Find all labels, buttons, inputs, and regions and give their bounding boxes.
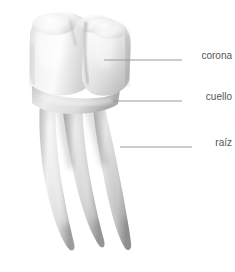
callout-label-corona: corona: [201, 50, 232, 61]
callout-label-cuello: cuello: [206, 91, 232, 102]
callout-label-raiz: raíz: [215, 137, 232, 148]
tooth-anatomy-figure: corona cuello raíz: [0, 0, 235, 272]
callout-leader-lines: [0, 0, 235, 272]
